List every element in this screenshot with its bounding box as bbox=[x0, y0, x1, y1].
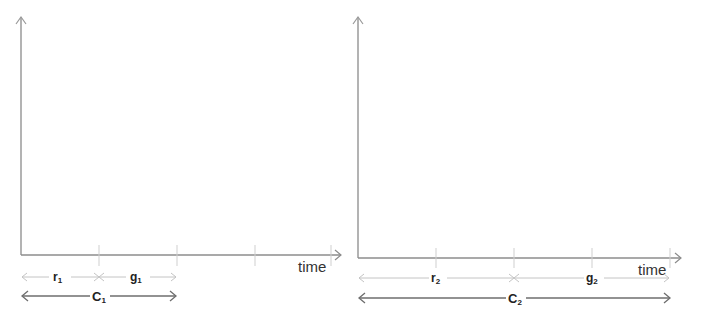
x-axis-1 bbox=[21, 245, 341, 266]
x-axis-2 bbox=[358, 248, 681, 268]
x-axis-label-1: time bbox=[298, 258, 326, 275]
phase-arrows-1 bbox=[22, 270, 176, 283]
y-axis-1 bbox=[16, 17, 26, 255]
diagram-2: time r2 g2 C2 bbox=[353, 17, 681, 307]
y-axis-2 bbox=[353, 17, 363, 258]
phase-arrows-2 bbox=[359, 271, 669, 284]
diagram-1: time r1 g1 C1 bbox=[16, 17, 341, 305]
x-axis-label-2: time bbox=[638, 261, 666, 278]
diagram-canvas: time r1 g1 C1 bbox=[0, 0, 701, 322]
